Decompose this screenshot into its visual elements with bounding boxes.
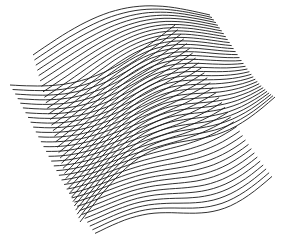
moire-line-artwork bbox=[0, 0, 286, 237]
